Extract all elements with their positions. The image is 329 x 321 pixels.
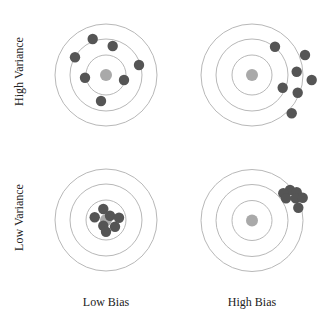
hit-dot: [80, 73, 90, 83]
bullseye-center: [246, 215, 258, 227]
hit-dot: [134, 60, 144, 70]
hit-dot: [287, 108, 297, 118]
hit-dot: [105, 211, 115, 221]
row-label-low-variance: Low Variance: [12, 178, 27, 258]
target-low-bias-low-variance: [55, 169, 157, 271]
hit-dot: [70, 52, 80, 62]
hit-dot: [108, 41, 118, 51]
hit-dot: [293, 203, 303, 213]
bias-variance-diagram: [0, 0, 329, 321]
col-label-high-bias: High Bias: [212, 295, 292, 310]
col-label-low-bias: Low Bias: [66, 295, 146, 310]
hit-dot: [90, 212, 100, 222]
hit-dot: [307, 75, 317, 85]
hit-dot: [270, 42, 280, 52]
hit-dot: [110, 222, 120, 232]
row-label-high-variance: High Variance: [12, 32, 27, 112]
hit-dot: [300, 50, 310, 60]
target-high-bias-high-variance: [201, 24, 317, 126]
hit-dot: [298, 193, 308, 203]
hit-dot: [96, 96, 106, 106]
hit-dot: [114, 213, 124, 223]
hit-dot: [278, 83, 288, 93]
target-high-bias-low-variance: [201, 170, 308, 272]
hit-dot: [281, 193, 291, 203]
hit-dot: [119, 75, 129, 85]
hit-dot: [101, 227, 111, 237]
bullseye-center: [246, 69, 258, 81]
hit-dot: [293, 88, 303, 98]
hit-dot: [88, 34, 98, 44]
target-low-bias-high-variance: [55, 24, 157, 126]
bullseye-center: [100, 69, 112, 81]
hit-dot: [292, 67, 302, 77]
